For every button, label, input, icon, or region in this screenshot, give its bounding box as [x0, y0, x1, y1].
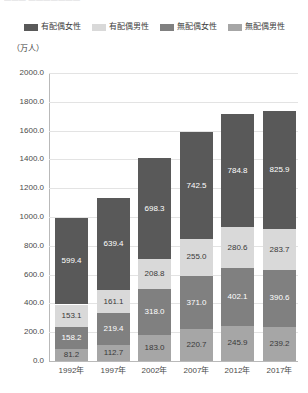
- bar-value-label: 639.4: [103, 240, 123, 248]
- bar-segment[interactable]: 239.2: [263, 327, 296, 361]
- bar-segment[interactable]: 220.7: [180, 329, 213, 361]
- y-axis-tick-label: 1800.0: [0, 98, 44, 106]
- bar-value-label: 208.8: [144, 270, 164, 278]
- bar-segment[interactable]: 158.2: [55, 327, 88, 350]
- bar-segment[interactable]: 81.2: [55, 349, 88, 361]
- bar-segment[interactable]: 183.0: [138, 335, 171, 361]
- gridline: [49, 188, 298, 189]
- y-axis-tick-label: 1400.0: [0, 155, 44, 163]
- bar-value-label: 153.1: [61, 312, 81, 320]
- legend-swatch-icon: [228, 24, 242, 31]
- legend-item: 有配偶男性: [92, 23, 149, 31]
- bar-value-label: 402.1: [227, 293, 247, 301]
- y-axis-tick-label: 0.0: [0, 357, 44, 365]
- bar-value-label: 784.8: [227, 167, 247, 175]
- bar-segment[interactable]: 112.7: [97, 345, 130, 361]
- bar-segment[interactable]: 698.3: [138, 158, 171, 259]
- bar-value-label: 742.5: [186, 182, 206, 190]
- x-axis-tick-label: 1997年: [91, 367, 136, 375]
- bar-segment[interactable]: 153.1: [55, 305, 88, 327]
- gridline: [49, 73, 298, 74]
- bar-value-label: 112.7: [104, 349, 123, 357]
- y-axis-unit-label: （万人）: [12, 42, 44, 53]
- gridline: [49, 131, 298, 132]
- bar-value-label: 245.9: [227, 339, 247, 347]
- bar-value-label: 161.1: [103, 298, 123, 306]
- x-axis-tick-label: 2017年: [257, 367, 302, 375]
- bar-stack[interactable]: 112.7219.4161.1639.4: [97, 198, 130, 361]
- bar-segment[interactable]: 255.0: [180, 239, 213, 276]
- x-axis-tick-label: 2002年: [132, 367, 177, 375]
- legend-label: 無配偶男性: [245, 23, 285, 31]
- bar-value-label: 158.2: [61, 334, 81, 342]
- bar-segment[interactable]: 219.4: [97, 313, 130, 345]
- legend-swatch-icon: [24, 24, 38, 31]
- bar-stack[interactable]: 183.0318.0208.8698.3: [138, 158, 171, 361]
- bar-value-label: 371.0: [186, 299, 206, 307]
- x-axis-line: [49, 361, 298, 362]
- bar-value-label: 255.0: [186, 253, 206, 261]
- stacked-bar-chart: 81.2158.2153.1599.4112.7219.4161.1639.41…: [0, 55, 308, 393]
- bar-value-label: 280.6: [227, 244, 247, 252]
- bar-value-label: 283.7: [269, 246, 289, 254]
- bar-value-label: 220.7: [186, 341, 206, 349]
- bar-value-label: 81.2: [64, 351, 80, 359]
- cropped-header-text: ——— ———————: [4, 0, 80, 3]
- gridline: [49, 159, 298, 160]
- bar-stack[interactable]: 245.9402.1280.6784.8: [221, 114, 254, 361]
- plot-area: 81.2158.2153.1599.4112.7219.4161.1639.41…: [49, 73, 298, 361]
- bar-value-label: 318.0: [144, 308, 164, 316]
- bar-stack[interactable]: 220.7371.0255.0742.5: [180, 132, 213, 361]
- bar-segment[interactable]: 784.8: [221, 114, 254, 227]
- bar-value-label: 599.4: [61, 257, 81, 265]
- bar-segment[interactable]: 283.7: [263, 229, 296, 270]
- cropped-header-strip: ——— ———————: [0, 0, 308, 9]
- bar-segment[interactable]: 390.6: [263, 270, 296, 326]
- legend-label: 有配偶女性: [41, 23, 81, 31]
- bar-segment[interactable]: 825.9: [263, 111, 296, 230]
- legend-swatch-icon: [92, 24, 106, 31]
- bar-stack[interactable]: 81.2158.2153.1599.4: [55, 218, 88, 361]
- y-axis-tick-label: 1000.0: [0, 213, 44, 221]
- legend-item: 無配偶女性: [160, 23, 217, 31]
- bar-segment[interactable]: 371.0: [180, 276, 213, 329]
- bar-value-label: 219.4: [103, 325, 123, 333]
- x-axis-tick-label: 2012年: [215, 367, 260, 375]
- legend-label: 無配偶女性: [177, 23, 217, 31]
- y-axis-tick-label: 200.0: [0, 328, 44, 336]
- gridline: [49, 102, 298, 103]
- x-axis-tick-label: 1992年: [49, 367, 94, 375]
- bar-segment[interactable]: 208.8: [138, 259, 171, 289]
- bar-segment[interactable]: 318.0: [138, 289, 171, 335]
- bar-segment[interactable]: 402.1: [221, 268, 254, 326]
- chart-legend: 有配偶女性有配偶男性無配偶女性無配偶男性: [0, 20, 308, 34]
- legend-item: 無配偶男性: [228, 23, 285, 31]
- legend-label: 有配偶男性: [109, 23, 149, 31]
- bar-segment[interactable]: 280.6: [221, 227, 254, 267]
- bar-segment[interactable]: 742.5: [180, 132, 213, 239]
- bar-segment[interactable]: 639.4: [97, 198, 130, 290]
- bar-value-label: 390.6: [269, 294, 289, 302]
- y-axis-tick-label: 1200.0: [0, 184, 44, 192]
- x-axis-tick-label: 2007年: [174, 367, 219, 375]
- y-axis-tick-label: 400.0: [0, 299, 44, 307]
- bar-value-label: 183.0: [144, 344, 164, 352]
- legend-swatch-icon: [160, 24, 174, 31]
- y-axis-tick-label: 1600.0: [0, 127, 44, 135]
- legend-item: 有配偶女性: [24, 23, 81, 31]
- y-axis-tick-label: 600.0: [0, 271, 44, 279]
- bar-segment[interactable]: 599.4: [55, 218, 88, 304]
- bar-value-label: 825.9: [269, 166, 289, 174]
- bar-segment[interactable]: 161.1: [97, 290, 130, 313]
- bar-value-label: 698.3: [144, 205, 164, 213]
- bar-value-label: 239.2: [269, 340, 289, 348]
- bar-stack[interactable]: 239.2390.6283.7825.9: [263, 111, 296, 361]
- y-axis-tick-label: 2000.0: [0, 69, 44, 77]
- bar-segment[interactable]: 245.9: [221, 326, 254, 361]
- y-axis-tick-label: 800.0: [0, 242, 44, 250]
